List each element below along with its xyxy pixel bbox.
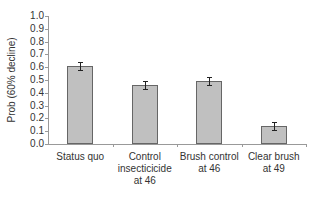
bar <box>67 66 93 144</box>
x-tick-label-line: Control <box>113 151 177 163</box>
y-tick-mark <box>45 144 48 145</box>
y-tick-mark <box>45 93 48 94</box>
y-tick-label: 0.2 <box>22 113 44 123</box>
y-tick-mark <box>45 54 48 55</box>
x-tick-label-line: at 46 <box>177 163 241 175</box>
error-bar-cap <box>143 81 148 82</box>
error-bar <box>80 62 81 70</box>
x-tick-label: Brush controlat 46 <box>177 151 241 175</box>
y-tick-mark <box>45 16 48 17</box>
y-tick-mark <box>45 42 48 43</box>
x-tick-label-line: Status quo <box>48 151 112 163</box>
y-tick-label: 0.6 <box>22 62 44 72</box>
y-tick-mark <box>45 106 48 107</box>
error-bar-cap <box>207 85 212 86</box>
x-tick-label-line: insecticicide <box>113 163 177 175</box>
error-bar-cap <box>272 130 277 131</box>
error-bar-cap <box>78 70 83 71</box>
y-tick-mark <box>45 29 48 30</box>
y-axis-label-text: Prob (60% decline) <box>6 37 17 122</box>
x-tick-mark <box>306 144 307 147</box>
error-bar-cap <box>143 89 148 90</box>
y-tick-mark <box>45 67 48 68</box>
y-axis <box>48 16 49 144</box>
y-tick-label: 0.5 <box>22 75 44 85</box>
x-tick-label: Controlinsecticicideat 46 <box>113 151 177 187</box>
x-tick-mark <box>242 144 243 147</box>
y-tick-label: 0.3 <box>22 101 44 111</box>
bar <box>196 81 222 144</box>
error-bar <box>145 81 146 89</box>
y-tick-mark <box>45 118 48 119</box>
y-tick-label: 0.0 <box>22 139 44 149</box>
y-tick-label: 0.1 <box>22 126 44 136</box>
x-tick-label-line: Clear brush <box>242 151 306 163</box>
y-axis-label: Prob (60% decline) <box>2 16 20 144</box>
error-bar-cap <box>272 122 277 123</box>
error-bar <box>209 77 210 85</box>
y-tick-label: 0.7 <box>22 49 44 59</box>
x-tick-label-line: Brush control <box>177 151 241 163</box>
x-tick-label: Status quo <box>48 151 112 163</box>
error-bar <box>274 122 275 130</box>
y-tick-mark <box>45 80 48 81</box>
y-tick-label: 0.4 <box>22 88 44 98</box>
y-tick-label: 1.0 <box>22 11 44 21</box>
error-bar-cap <box>207 77 212 78</box>
x-tick-mark <box>177 144 178 147</box>
x-tick-mark <box>113 144 114 147</box>
y-tick-mark <box>45 131 48 132</box>
x-tick-label-line: at 49 <box>242 163 306 175</box>
x-tick-label-line: at 46 <box>113 175 177 187</box>
x-tick-label: Clear brushat 49 <box>242 151 306 175</box>
bar-chart: Prob (60% decline) 0.00.10.20.30.40.50.6… <box>0 0 310 198</box>
error-bar-cap <box>78 62 83 63</box>
bar <box>132 85 158 144</box>
y-tick-label: 0.8 <box>22 37 44 47</box>
y-tick-label: 0.9 <box>22 24 44 34</box>
